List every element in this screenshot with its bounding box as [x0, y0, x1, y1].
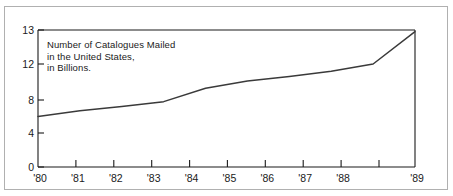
- x-tick-label-83: '83: [147, 172, 161, 184]
- annotation-line-3: in Billions.: [47, 62, 175, 74]
- x-tick-label-81: '81: [71, 172, 85, 184]
- x-tick-label-88: '88: [336, 172, 350, 184]
- annotation-line-2: in the United States,: [47, 51, 175, 63]
- x-tick-label-89: '89: [410, 172, 424, 184]
- y-tick-label-13: 13: [22, 24, 34, 36]
- y-tick-label-12: 12: [22, 58, 34, 70]
- x-tick-label-84: '84: [185, 172, 199, 184]
- chart-figure: 13 12 8 4 0 '80 '81 '82 '83 '84 '85 '86 …: [0, 0, 453, 196]
- chart-annotation: Number of Catalogues Mailed in the Unite…: [47, 39, 175, 74]
- y-tick-label-8: 8: [28, 94, 34, 106]
- x-tick-label-86: '86: [260, 172, 274, 184]
- x-tick-label-85: '85: [223, 172, 237, 184]
- y-tick-label-4: 4: [28, 127, 34, 139]
- x-tick-label-80: '80: [33, 172, 47, 184]
- x-tick-label-82: '82: [109, 172, 123, 184]
- annotation-line-1: Number of Catalogues Mailed: [47, 39, 175, 51]
- x-tick-label-87: '87: [298, 172, 312, 184]
- line-chart: 13 12 8 4 0 '80 '81 '82 '83 '84 '85 '86 …: [0, 0, 453, 196]
